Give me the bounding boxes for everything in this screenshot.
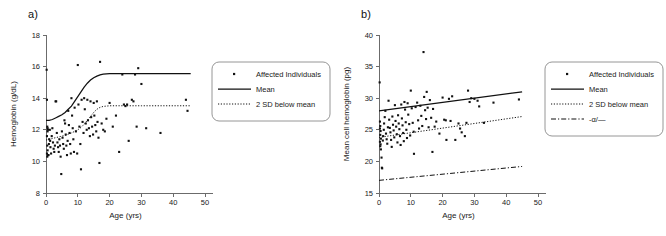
line-series-solid — [379, 92, 522, 111]
x-axis-title: Age (yrs) — [109, 211, 142, 220]
y-tick-label: 18 — [32, 31, 40, 40]
legend-label: Mean — [589, 85, 608, 94]
y-tick-label: 10 — [32, 157, 40, 166]
y-tick-label: 25 — [365, 125, 373, 134]
line-series-solid — [46, 74, 191, 121]
y-tick-label: 16 — [32, 62, 40, 71]
line-series-dash-dot — [379, 166, 522, 180]
panel-label-b: b) — [361, 8, 371, 20]
legend-label: Mean — [256, 85, 275, 94]
x-tick-label: 0 — [377, 198, 381, 207]
x-tick-label: 50 — [201, 198, 209, 207]
legend-marker-point — [233, 73, 235, 75]
figure-container: a)8101214161801020304050Age (yrs)Hemoglo… — [0, 0, 666, 236]
panel-a: a)8101214161801020304050Age (yrs)Hemoglo… — [0, 0, 333, 236]
y-axis-ticks: 81012141618 — [32, 31, 46, 198]
x-tick-label: 20 — [438, 198, 446, 207]
axes — [46, 35, 213, 193]
x-tick-label: 40 — [502, 198, 510, 207]
x-axis-ticks: 01020304050 — [377, 193, 542, 207]
y-tick-label: 14 — [32, 94, 40, 103]
legend-label: Affected Individuals — [589, 70, 654, 79]
legend-label: Affected Individuals — [256, 70, 321, 79]
x-axis-ticks: 01020304050 — [44, 193, 209, 207]
x-tick-label: 20 — [105, 198, 113, 207]
x-tick-label: 10 — [407, 198, 415, 207]
panel-label-a: a) — [28, 8, 38, 20]
y-tick-label: 40 — [365, 31, 373, 40]
y-tick-label: 8 — [36, 189, 40, 198]
line-series-dotted — [379, 117, 522, 138]
legend-label: 2 SD below mean — [589, 100, 648, 109]
scatter-series — [379, 51, 520, 169]
y-tick-label: 30 — [365, 94, 373, 103]
panel-b: b)15202530354001020304050Age (yrs)Mean c… — [333, 0, 666, 236]
x-tick-label: 30 — [137, 198, 145, 207]
y-tick-label: 20 — [365, 157, 373, 166]
legend-label: 2 SD below mean — [256, 100, 315, 109]
y-axis-title: Hemoglobin (g/dL) — [9, 81, 18, 147]
x-tick-label: 50 — [534, 198, 542, 207]
scatter-series — [46, 61, 189, 175]
legend: Affected IndividualsMean2 SD below mean-… — [545, 62, 663, 136]
legend-label: -α/— — [589, 115, 606, 124]
legend: Affected IndividualsMean2 SD below mean — [212, 62, 330, 121]
axes — [379, 35, 546, 193]
x-tick-label: 30 — [470, 198, 478, 207]
y-axis-title: Mean cell hemoglobin (pg) — [342, 67, 351, 162]
legend-marker-point — [566, 73, 568, 75]
x-axis-title: Age (yrs) — [442, 211, 475, 220]
y-axis-ticks: 152025303540 — [365, 31, 379, 198]
x-tick-label: 10 — [74, 198, 82, 207]
y-tick-label: 12 — [32, 125, 40, 134]
chart-a: 8101214161801020304050Age (yrs)Hemoglobi… — [0, 0, 333, 236]
x-tick-label: 0 — [44, 198, 48, 207]
y-tick-label: 15 — [365, 189, 373, 198]
chart-b: 15202530354001020304050Age (yrs)Mean cel… — [333, 0, 666, 236]
y-tick-label: 35 — [365, 62, 373, 71]
x-tick-label: 40 — [169, 198, 177, 207]
